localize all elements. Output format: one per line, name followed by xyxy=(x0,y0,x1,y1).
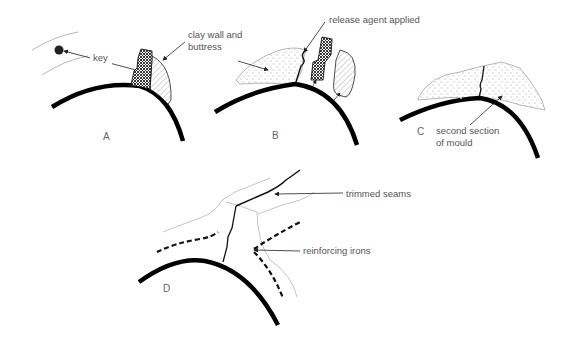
panel-d: trimmed seams reinforcing irons D xyxy=(139,170,411,325)
reinforcing-iron-right-upper xyxy=(254,222,300,249)
removed-buttress xyxy=(334,50,356,97)
trimmed-seams-label: trimmed seams xyxy=(346,188,411,199)
release-agent-label: release agent applied xyxy=(329,14,420,25)
trimmed-seam-vertical xyxy=(223,206,236,262)
clay-wall-label: clay wall and xyxy=(188,29,242,40)
mould-making-diagram: key clay wall and buttress A release age… xyxy=(0,0,568,346)
reinforcing-iron-left xyxy=(157,232,218,252)
outer-contour-right xyxy=(258,192,314,214)
of-mould-label: of mould xyxy=(436,137,472,148)
clay-arrow xyxy=(163,42,185,60)
panel-label-a: A xyxy=(103,131,110,142)
panel-a: key clay wall and buttress A xyxy=(32,29,242,142)
panel-c: C second section of mould xyxy=(400,62,545,158)
inner-contour xyxy=(226,202,297,297)
key-ball-icon xyxy=(55,46,64,55)
panel-label-d: D xyxy=(163,283,170,294)
seams-arrow xyxy=(275,193,343,194)
outer-contour-left xyxy=(163,178,270,232)
clay-wall xyxy=(131,49,152,89)
sculpture-surface xyxy=(139,260,278,325)
panel-label-c: C xyxy=(417,126,424,137)
faint-arc-outer xyxy=(32,32,78,50)
second-section-label: second section xyxy=(436,125,499,136)
irons-arrow xyxy=(254,250,300,251)
first-mould-section xyxy=(236,48,306,85)
reinforcing-irons-label: reinforcing irons xyxy=(303,245,371,256)
panel-b: release agent applied B xyxy=(215,14,420,145)
completed-mould xyxy=(418,62,545,110)
panel-label-b: B xyxy=(272,130,279,141)
removed-clay-wall xyxy=(311,37,332,80)
buttress-label: buttress xyxy=(188,41,222,52)
key-label: key xyxy=(93,52,108,63)
buttress xyxy=(150,56,171,104)
faint-arc-inner xyxy=(42,56,88,75)
